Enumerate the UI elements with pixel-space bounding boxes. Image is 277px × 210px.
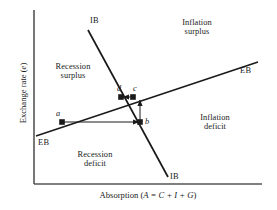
ib-label-top: IB bbox=[90, 16, 99, 25]
x-axis-title-text: Absorption bbox=[100, 190, 139, 200]
region-inflation-surplus: Inflation surplus bbox=[169, 18, 225, 37]
y-axis-title-text: Exchange rate bbox=[18, 74, 28, 123]
diagram-canvas bbox=[0, 0, 277, 210]
x-axis-title-formula: A = C + I + G bbox=[143, 190, 193, 200]
point-b-marker bbox=[137, 119, 143, 125]
region-inflation-surplus-line2: surplus bbox=[169, 27, 225, 36]
eb-label-left: EB bbox=[38, 138, 49, 147]
region-inflation-deficit-line2: deficit bbox=[187, 122, 243, 131]
region-recession-surplus-line1: Recession bbox=[45, 62, 101, 71]
swan-diagram-figure: Absorption (A = C + I + G) Exchange rate… bbox=[0, 0, 277, 210]
region-recession-surplus-line2: surplus bbox=[45, 71, 101, 80]
region-inflation-deficit: Inflation deficit bbox=[187, 113, 243, 132]
region-recession-deficit: Recession deficit bbox=[67, 150, 123, 169]
eb-label-right: EB bbox=[240, 66, 251, 75]
region-inflation-surplus-line1: Inflation bbox=[169, 18, 225, 27]
x-axis-title-formula-wrap: (A = C + I + G) bbox=[140, 190, 196, 200]
point-c-marker bbox=[130, 94, 136, 100]
region-recession-deficit-line1: Recession bbox=[67, 150, 123, 159]
point-b-label: b bbox=[145, 117, 149, 126]
region-recession-deficit-line2: deficit bbox=[67, 159, 123, 168]
point-d-marker bbox=[118, 94, 124, 100]
region-recession-surplus: Recession surplus bbox=[45, 62, 101, 81]
y-axis-title: Exchange rate (e) bbox=[18, 18, 28, 168]
point-a-label: a bbox=[56, 109, 60, 118]
point-a-marker bbox=[59, 119, 65, 125]
region-inflation-deficit-line1: Inflation bbox=[187, 113, 243, 122]
point-d-label: d bbox=[117, 84, 121, 93]
point-c-label: c bbox=[133, 84, 137, 93]
ib-label-bottom: IB bbox=[170, 172, 179, 181]
y-axis-title-symbol: e bbox=[18, 66, 28, 70]
x-axis-title: Absorption (A = C + I + G) bbox=[34, 190, 262, 200]
